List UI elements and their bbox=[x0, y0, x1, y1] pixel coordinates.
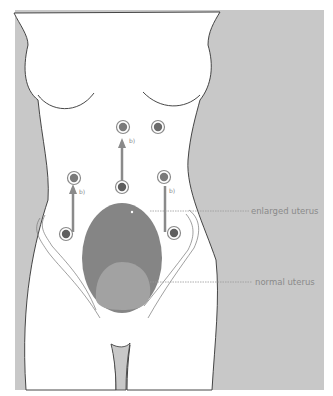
laparoscopy-port-diagram: b) b) b) enlarged uterus normal uterus bbox=[0, 0, 333, 396]
port-label-left: b) bbox=[79, 188, 85, 195]
port-mid-left bbox=[68, 172, 81, 185]
port-label-upper: b) bbox=[129, 137, 135, 144]
label-enlarged-uterus: enlarged uterus bbox=[251, 206, 319, 216]
port-lower-left bbox=[60, 228, 73, 241]
port-label-right: b) bbox=[169, 187, 175, 194]
uterus-marker-dot bbox=[131, 211, 133, 213]
port-mid-right bbox=[158, 171, 171, 184]
port-upper-right bbox=[152, 121, 165, 134]
port-upper-left bbox=[117, 121, 130, 134]
port-lower-right bbox=[168, 227, 181, 240]
port-umbilical bbox=[116, 181, 129, 194]
label-normal-uterus: normal uterus bbox=[255, 277, 315, 287]
